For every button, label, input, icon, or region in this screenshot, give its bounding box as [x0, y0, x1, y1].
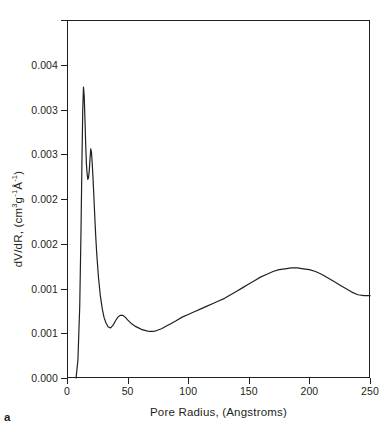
y-tick: [61, 244, 67, 245]
x-tick: [128, 378, 129, 384]
x-tick: [309, 378, 310, 384]
y-axis-title-close: ): [12, 171, 24, 175]
y-tick: [61, 154, 67, 155]
y-axis-title-sup-g: -1: [10, 190, 19, 197]
y-tick: [61, 110, 67, 111]
y-axis-title-main: dV/dR, (cm: [12, 208, 24, 268]
y-axis-title-angstrom: Å: [12, 182, 24, 190]
x-tick: [67, 378, 68, 384]
y-tick-label: 0.000: [31, 373, 58, 384]
y-axis-title-g: g: [12, 197, 24, 204]
figure: 0.0000.0010.0010.0020.0020.0030.0030.004…: [0, 0, 385, 439]
y-axis-title: dV/dR, (cm3g-1Å-1): [10, 40, 30, 398]
x-tick-label: 0: [64, 386, 70, 397]
y-tick: [61, 333, 67, 334]
x-tick-label: 250: [361, 386, 379, 397]
y-tick-label: 0.001: [31, 284, 58, 295]
x-tick: [188, 378, 189, 384]
chart-plot-area: [67, 20, 370, 378]
y-tick-label: 0.003: [31, 105, 58, 116]
x-tick-label: 50: [122, 386, 134, 397]
y-tick-label: 0.001: [31, 328, 58, 339]
y-tick-label: 0.002: [31, 194, 58, 205]
y-tick-label: 0.003: [31, 149, 58, 160]
y-axis-title-sup-a: -1: [10, 175, 19, 182]
x-tick-label: 150: [240, 386, 258, 397]
x-tick-label: 100: [179, 386, 197, 397]
y-tick: [61, 65, 67, 66]
x-axis-title: Pore Radius, (Angstroms): [67, 406, 370, 418]
y-tick-label: 0.004: [31, 60, 58, 71]
x-tick-label: 200: [300, 386, 318, 397]
panel-label: a: [4, 411, 10, 423]
x-tick: [370, 378, 371, 384]
y-tick: [61, 289, 67, 290]
y-tick: [61, 20, 67, 21]
y-tick-label: 0.002: [31, 239, 58, 250]
y-axis-title-sup-3: 3: [10, 203, 19, 207]
x-tick: [249, 378, 250, 384]
data-series-line: [76, 87, 370, 378]
y-tick: [61, 199, 67, 200]
